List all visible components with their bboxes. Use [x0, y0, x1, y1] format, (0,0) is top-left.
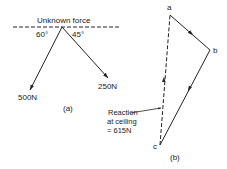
force-500n-label: 500N	[18, 93, 37, 102]
point-c-label: c	[153, 142, 157, 151]
vector-ab	[170, 15, 210, 50]
unknown-force-label: Unknown force	[37, 16, 90, 25]
caption-a: (a)	[63, 104, 73, 113]
vector-ca-reaction	[160, 15, 170, 145]
point-b-label: b	[213, 46, 217, 55]
angle-45-label: 45°	[72, 30, 84, 39]
point-a-label: a	[167, 3, 171, 12]
reaction-label-line1: Reaction	[108, 108, 138, 117]
reaction-label-line3: = 615N	[107, 126, 131, 135]
force-250n-arrow	[62, 27, 108, 78]
vector-bc	[160, 50, 210, 145]
angle-60-label: 60°	[36, 30, 48, 39]
reaction-label-line2: at ceiling	[107, 117, 137, 126]
force-250n-label: 250N	[98, 82, 117, 91]
caption-b: (b)	[170, 153, 180, 162]
